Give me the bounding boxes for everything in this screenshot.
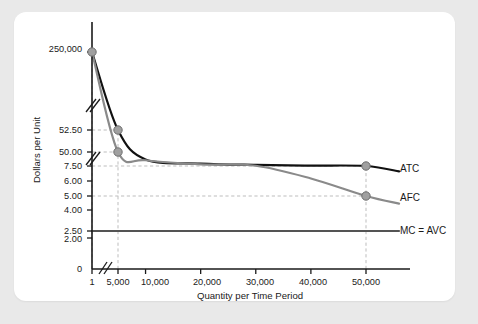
series-label-mc-avc: MC = AVC [400, 225, 446, 236]
x-tick-label-50000: 50,000 [352, 277, 380, 287]
marker-atc-1 [88, 48, 96, 56]
x-tick-label-30000: 30,000 [246, 277, 274, 287]
x-tick-label-20000: 20,000 [193, 277, 221, 287]
y-tick-label-7-50: 7.50 [64, 161, 82, 171]
marker-atc-5000 [114, 126, 122, 134]
curve-afc [92, 52, 399, 204]
y-tick-label-0: 0 [77, 264, 82, 274]
y-tick-label-50-00: 50.00 [59, 147, 82, 157]
y-tick-label-5-00: 5.00 [64, 191, 82, 201]
x-tick-label-40000: 40,000 [299, 277, 327, 287]
marker-atc-50000 [362, 162, 370, 170]
y-axis-title: Dollars per Unit [31, 117, 42, 183]
y-tick-label-2-00: 2.00 [64, 234, 82, 244]
marker-afc-5000 [114, 148, 122, 156]
chart-page: 250,000 52.50 50.00 7.50 6.00 5.00 4.00 … [0, 0, 478, 324]
data-point-markers [88, 48, 370, 200]
x-tick-label-10000: 10,000 [141, 277, 169, 287]
axis-break-marks [86, 99, 112, 274]
y-tick-label-52-50: 52.50 [59, 125, 82, 135]
series-label-afc: AFC [400, 192, 420, 203]
x-axis-title: Quantity per Time Period [197, 290, 303, 301]
series-label-atc: ATC [400, 163, 419, 174]
x-tick-label-5000: 5,000 [107, 277, 130, 287]
y-tick-label-250000: 250,000 [49, 44, 82, 54]
x-tick-label-1: 1 [89, 277, 94, 287]
marker-afc-50000 [362, 192, 370, 200]
curve-atc [92, 52, 399, 171]
y-tick-label-4-00: 4.00 [64, 205, 82, 215]
curves [92, 52, 399, 231]
cost-curves-chart: 250,000 52.50 50.00 7.50 6.00 5.00 4.00 … [0, 0, 478, 324]
y-tick-label-6-00: 6.00 [64, 176, 82, 186]
